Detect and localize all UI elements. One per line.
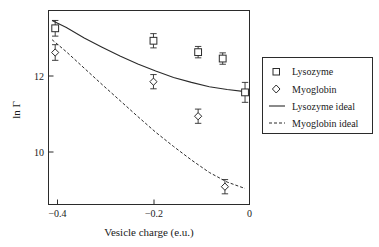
data-point-diamond: [221, 183, 228, 190]
data-point-square: [242, 89, 249, 96]
x-axis-title: Vesicle charge (e.u.): [104, 226, 194, 239]
legend-item-label: Lysozyme: [292, 66, 334, 77]
x-tick-label: 0: [247, 208, 252, 219]
plot-frame: [49, 11, 250, 205]
y-tick-label: 12: [34, 71, 44, 82]
legend-square-icon: [273, 69, 280, 76]
series-points-lysozyme: [52, 20, 249, 102]
data-point-square: [219, 55, 226, 62]
data-point-square: [52, 25, 59, 32]
series-line-myoglobin-ideal: [52, 40, 245, 189]
x-tick-label: −0.2: [145, 208, 163, 219]
data-point-diamond: [52, 49, 59, 56]
y-axis-title: ln Γ: [10, 101, 22, 119]
data-point-square: [195, 49, 202, 56]
data-point-diamond: [150, 78, 157, 85]
data-point-square: [150, 37, 157, 44]
data-layer: [52, 20, 249, 193]
legend-item-label: Myoglobin ideal: [292, 118, 359, 129]
series-points-myoglobin: [52, 45, 229, 194]
legend-item-label: Lysozyme ideal: [292, 101, 355, 112]
series-line-lysozyme-ideal: [52, 20, 245, 91]
x-axis-ticks: [58, 200, 250, 205]
y-axis-ticks: [49, 76, 54, 152]
legend: Lysozyme Myoglobin Lysozyme ideal Myoglo…: [263, 58, 373, 134]
figure-canvas: −0.4 −0.2 0 12 10 Vesicle charge (e.u.) …: [0, 0, 379, 247]
data-point-diamond: [195, 113, 202, 120]
x-tick-label: −0.4: [48, 208, 66, 219]
y-tick-label: 10: [34, 147, 44, 158]
legend-item-label: Myoglobin: [292, 84, 336, 95]
